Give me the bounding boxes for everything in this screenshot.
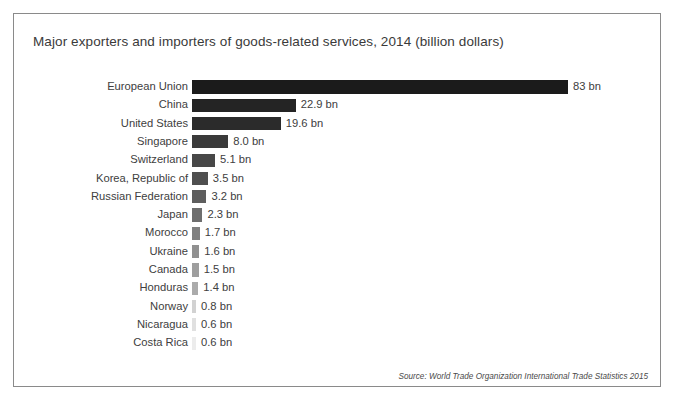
bar-row: Korea, Republic of3.5 bn	[0, 170, 674, 188]
bar	[192, 154, 215, 167]
bar-category-label: Morocco	[145, 224, 188, 242]
bar	[192, 337, 196, 350]
bar-category-label: Japan	[158, 206, 188, 224]
bar-category-label: Honduras	[139, 279, 188, 297]
bar-row: Ukraine1.6 bn	[0, 243, 674, 261]
bar-value-label: 8.0 bn	[233, 133, 264, 151]
bar-row: United States19.6 bn	[0, 115, 674, 133]
bar-category-label: United States	[121, 115, 188, 133]
bar	[192, 135, 228, 148]
bar-category-label: Canada	[149, 261, 188, 279]
bar-category-label: Norway	[150, 298, 188, 316]
bar-row: Morocco1.7 bn	[0, 224, 674, 242]
bar-value-label: 19.6 bn	[286, 115, 323, 133]
bar-category-label: Ukraine	[149, 243, 188, 261]
bar	[192, 208, 202, 221]
bar	[192, 117, 281, 130]
bar-value-label: 3.5 bn	[213, 170, 244, 188]
bar-category-label: Nicaragua	[137, 316, 188, 334]
bar	[192, 227, 200, 240]
chart-screenshot: Major exporters and importers of goods-r…	[0, 0, 674, 398]
bar-row: Japan2.3 bn	[0, 206, 674, 224]
bar-value-label: 1.5 bn	[204, 261, 235, 279]
bar-category-label: Singapore	[137, 133, 188, 151]
bar-value-label: 3.2 bn	[211, 188, 242, 206]
bar-category-label: Russian Federation	[91, 188, 188, 206]
bar-row: European Union83 bn	[0, 78, 674, 96]
bar	[192, 245, 199, 258]
bar-value-label: 2.3 bn	[207, 206, 238, 224]
bar-category-label: Switzerland	[130, 151, 188, 169]
bar	[192, 300, 196, 313]
bar-row: Canada1.5 bn	[0, 261, 674, 279]
bar-value-label: 1.7 bn	[205, 224, 236, 242]
bar-category-label: Korea, Republic of	[96, 170, 188, 188]
bar-chart-plot-area: European Union83 bnChina22.9 bnUnited St…	[0, 0, 674, 398]
bar	[192, 172, 208, 185]
bar	[192, 318, 196, 331]
bar-value-label: 0.6 bn	[201, 334, 232, 352]
bar-value-label: 83 bn	[573, 78, 601, 96]
bar-row: Singapore8.0 bn	[0, 133, 674, 151]
bar-category-label: Costa Rica	[133, 334, 188, 352]
bar-row: Russian Federation3.2 bn	[0, 188, 674, 206]
bar-value-label: 22.9 bn	[301, 96, 338, 114]
bar-value-label: 0.8 bn	[201, 298, 232, 316]
bar-row: Nicaragua0.6 bn	[0, 316, 674, 334]
bar-category-label: European Union	[107, 78, 188, 96]
bar-row: Norway0.8 bn	[0, 298, 674, 316]
bar-value-label: 0.6 bn	[201, 316, 232, 334]
bar-value-label: 5.1 bn	[220, 151, 251, 169]
bar	[192, 282, 198, 295]
bar	[192, 190, 206, 203]
bar-row: Switzerland5.1 bn	[0, 151, 674, 169]
chart-source-note: Source: World Trade Organization Interna…	[398, 372, 648, 381]
bar	[192, 263, 199, 276]
bar-value-label: 1.4 bn	[203, 279, 234, 297]
bar-row: Honduras1.4 bn	[0, 279, 674, 297]
bar	[192, 99, 296, 112]
bar-row: Costa Rica0.6 bn	[0, 334, 674, 352]
bar-category-label: China	[159, 96, 188, 114]
bar-value-label: 1.6 bn	[204, 243, 235, 261]
bar-row: China22.9 bn	[0, 96, 674, 114]
bar	[192, 80, 568, 93]
